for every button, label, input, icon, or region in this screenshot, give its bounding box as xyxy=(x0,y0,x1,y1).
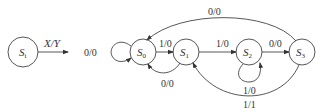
svg-text:S3: S3 xyxy=(296,46,306,60)
transition-s0-s0: 0/0 xyxy=(84,42,131,61)
svg-text:1/0: 1/0 xyxy=(159,38,172,49)
legend-edge-label: X/Y xyxy=(43,37,62,49)
svg-text:0/0: 0/0 xyxy=(269,38,282,49)
svg-text:0/0: 0/0 xyxy=(84,47,97,58)
state-s3: S3 xyxy=(289,39,315,65)
state-diagram: Si X/Y 0/0 S0 S1 S2 S3 1/0 0/0 1/0 xyxy=(0,0,324,112)
transition-s1-s0: 0/0 xyxy=(148,63,180,89)
legend-edge: X/Y xyxy=(38,37,68,52)
transition-s1-s2: 1/0 xyxy=(199,38,236,52)
svg-text:S0: S0 xyxy=(137,46,147,60)
svg-text:1/0: 1/0 xyxy=(243,85,256,96)
legend-state: Si xyxy=(8,37,38,67)
svg-text:0/0: 0/0 xyxy=(161,78,174,89)
svg-text:1/0: 1/0 xyxy=(216,38,229,49)
svg-text:1/1: 1/1 xyxy=(243,99,256,110)
state-s1: S1 xyxy=(173,39,199,65)
transition-s2-s3: 0/0 xyxy=(262,38,289,52)
transition-s2-s2: 1/0 xyxy=(239,63,261,96)
svg-text:S1: S1 xyxy=(180,46,190,60)
transition-s3-s0: 0/0 xyxy=(147,6,296,41)
state-s0: S0 xyxy=(130,39,156,65)
state-s2: S2 xyxy=(236,39,262,65)
svg-text:0/0: 0/0 xyxy=(208,6,221,17)
transition-s0-s1: 1/0 xyxy=(156,38,173,52)
legend-state-label: Si xyxy=(19,46,27,60)
svg-text:S2: S2 xyxy=(243,46,253,60)
